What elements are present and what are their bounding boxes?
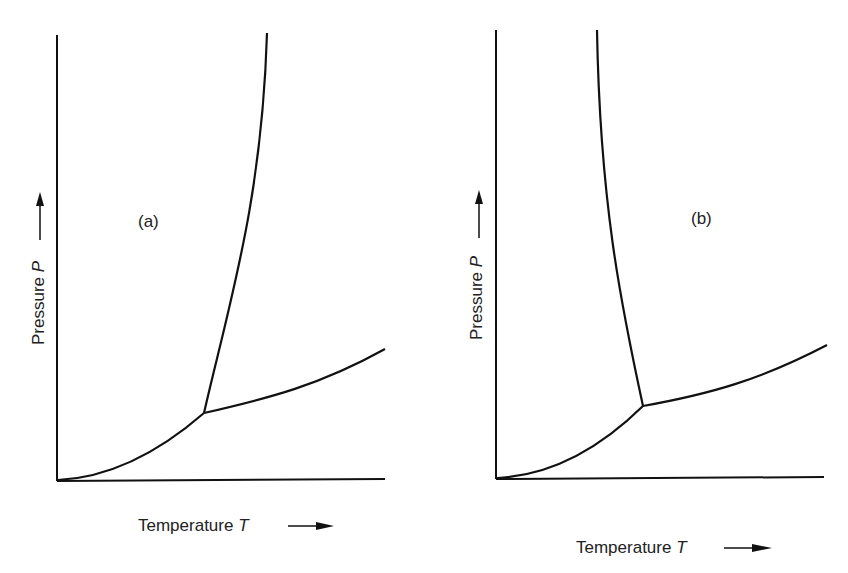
melting-curve <box>204 33 267 413</box>
sublimation-curve <box>58 413 204 480</box>
panel-label: (b) <box>691 209 712 228</box>
vaporization-curve <box>204 349 385 413</box>
x-axis-label: Temperature T <box>138 516 250 535</box>
x-axis-label: Temperature T <box>576 538 688 557</box>
panel-a: (a) Pressure P Temperature T <box>29 33 385 535</box>
y-axis-label: Pressure P <box>29 260 48 345</box>
panel-b: (b) Pressure P Temperature T <box>467 30 827 557</box>
y-axis-label: Pressure P <box>467 255 486 340</box>
x-axis <box>57 479 385 481</box>
panel-label: (a) <box>138 212 159 231</box>
melting-curve <box>597 30 643 406</box>
vaporization-curve <box>643 345 827 406</box>
sublimation-curve <box>497 406 643 478</box>
phase-diagrams: (a) Pressure P Temperature T (b) Pressur… <box>0 0 848 573</box>
x-axis <box>496 477 824 479</box>
